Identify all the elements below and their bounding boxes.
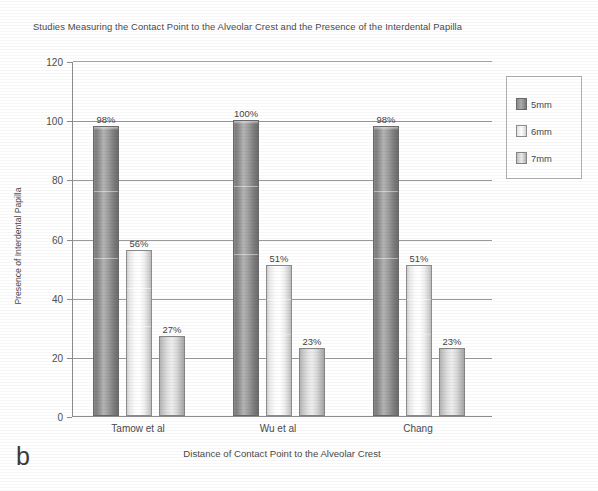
plot-top-rule [73,61,492,62]
panel-letter: b [16,444,30,469]
bar-band [374,191,398,192]
bar-chang-5mm[interactable] [373,126,399,416]
bar-band [127,326,151,327]
legend-swatch-5mm-icon [516,98,527,110]
bar-band [94,191,118,192]
x-category-label-0: Tamow et al [111,423,164,434]
bar-wu-et-al-7mm[interactable] [299,348,325,416]
chart-title: Studies Measuring the Contact Point to t… [33,21,462,32]
bar-chang-7mm[interactable] [439,348,465,416]
legend-label-5mm: 5mm [531,99,552,110]
legend-item-5mm[interactable]: 5mm [516,98,552,110]
bar-band [94,258,118,259]
bar-tamow-et-al-6mm[interactable] [126,250,152,416]
y-tick-label-60: 60 [52,234,63,245]
legend-label-7mm: 7mm [531,153,552,164]
bar-value-label: 56% [130,238,149,249]
bar-tamow-et-al-7mm[interactable] [159,336,185,416]
y-tick-label-120: 120 [46,57,63,68]
legend-label-6mm: 6mm [531,126,552,137]
gridline-80 [73,180,492,181]
y-tick-mark-0 [67,417,72,418]
bar-value-label: 27% [163,324,182,335]
bar-band [267,334,291,335]
y-tick-mark-20 [67,358,72,359]
x-category-label-2: Chang [403,423,432,434]
bar-band [374,258,398,259]
bar-tamow-et-al-5mm[interactable] [93,126,119,416]
legend: 5mm 6mm 7mm [506,76,582,179]
y-tick-label-80: 80 [52,175,63,186]
x-category-label-1: Wu et al [260,423,297,434]
bar-band [407,299,431,300]
plot-area: 98%56%27%100%51%23%98%51%23% [72,62,492,417]
y-tick-label-0: 0 [57,412,63,423]
bar-value-label: 23% [303,336,322,347]
bar-value-label: 51% [270,253,289,264]
y-tick-mark-40 [67,299,72,300]
legend-swatch-6mm-icon [516,125,527,137]
bar-band [234,186,258,187]
bar-band [267,299,291,300]
y-axis-title: Presence of Interdental Papilla [13,187,23,304]
bar-value-label: 98% [97,114,116,125]
y-tick-mark-100 [67,121,72,122]
x-axis-title: Distance of Contact Point to the Alveola… [183,448,380,459]
bar-value-label: 100% [234,108,258,119]
y-tick-mark-120 [67,62,72,63]
bar-value-label: 51% [410,253,429,264]
bar-value-label: 98% [377,114,396,125]
legend-item-6mm[interactable]: 6mm [516,125,552,137]
bar-band [127,288,151,289]
bar-band [234,254,258,255]
y-tick-label-20: 20 [52,352,63,363]
bar-wu-et-al-5mm[interactable] [233,120,259,416]
legend-swatch-7mm-icon [516,152,527,164]
bar-value-label: 23% [443,336,462,347]
y-tick-label-40: 40 [52,293,63,304]
y-tick-mark-60 [67,240,72,241]
bar-band [407,334,431,335]
gridline-100 [73,121,492,122]
bar-wu-et-al-6mm[interactable] [266,265,292,416]
bar-chang-6mm[interactable] [406,265,432,416]
y-tick-label-100: 100 [46,116,63,127]
y-tick-mark-80 [67,180,72,181]
legend-item-7mm[interactable]: 7mm [516,152,552,164]
